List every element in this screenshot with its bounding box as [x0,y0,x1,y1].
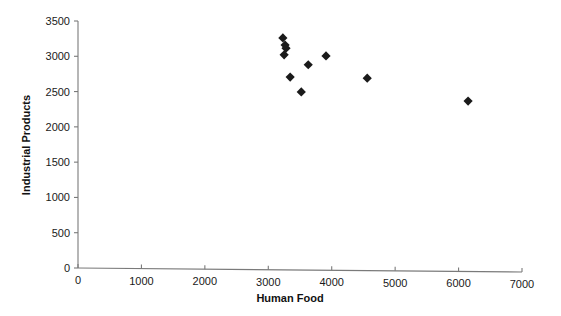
chart-canvas: 0500100015002000250030003500 01000200030… [0,0,561,316]
x-tick-label: 0 [75,274,81,286]
x-axis-title: Human Food [256,292,323,304]
x-tick-label: 4000 [319,276,343,288]
y-tick-label: 2500 [46,86,70,98]
y-tick-label: 1500 [46,156,70,168]
y-tick-label: 3500 [46,15,70,27]
x-tick-label: 1000 [129,275,153,287]
x-tick-label: 2000 [193,275,217,287]
scatter-chart: 0500100015002000250030003500 01000200030… [0,0,561,316]
y-axis-title: Industrial Products [20,95,32,195]
y-tick-label: 2000 [46,121,70,133]
y-tick-label: 1000 [46,191,70,203]
y-tick-label: 3000 [46,50,70,62]
x-tick-label: 3000 [256,276,280,288]
y-tick-label: 0 [64,262,70,274]
x-tick-label: 7000 [510,278,534,290]
x-tick-label: 6000 [446,277,470,289]
y-tick-label: 500 [52,227,70,239]
x-tick-label: 5000 [383,277,407,289]
